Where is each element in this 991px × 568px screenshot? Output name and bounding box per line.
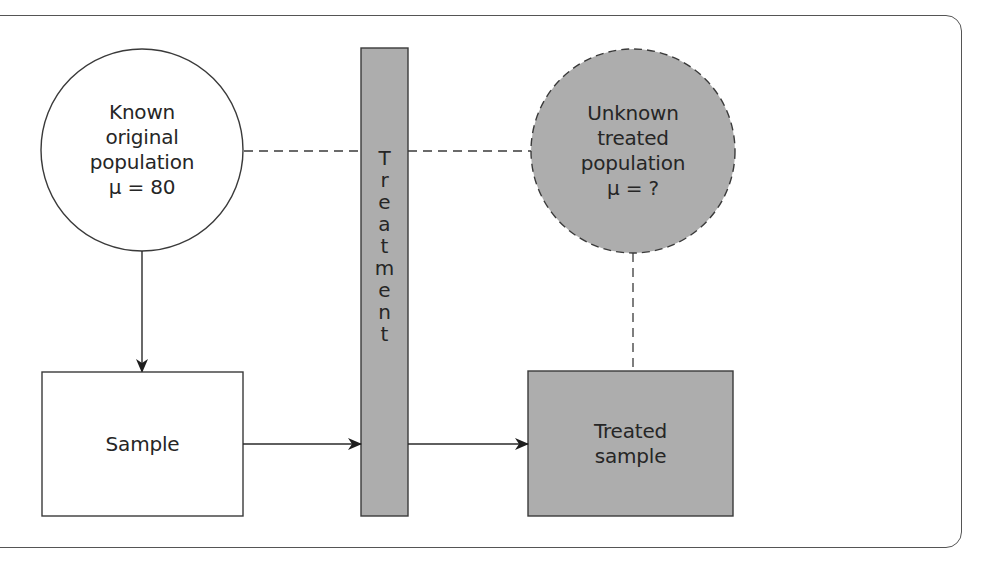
treatment-letter: r bbox=[380, 169, 388, 191]
treatment-letter: n bbox=[378, 301, 391, 323]
treatment-letter: m bbox=[375, 257, 394, 279]
sample-label: Sample bbox=[42, 372, 243, 516]
treatment-letter: t bbox=[381, 323, 389, 345]
treated-sample-line-2: sample bbox=[595, 444, 667, 469]
known-population-line-2: original bbox=[105, 125, 178, 150]
treatment-letter: e bbox=[378, 279, 390, 301]
treatment-letter: t bbox=[381, 235, 389, 257]
known-population-line-1: Known bbox=[109, 100, 175, 125]
treatment-letter: e bbox=[378, 191, 390, 213]
unknown-population-line-2: treated bbox=[597, 126, 669, 151]
known-population-mean: μ = 80 bbox=[109, 175, 175, 200]
sample-text: Sample bbox=[106, 432, 180, 457]
treated-sample-line-1: Treated bbox=[594, 419, 667, 444]
known-population-line-3: population bbox=[90, 150, 194, 175]
unknown-population-line-1: Unknown bbox=[587, 101, 678, 126]
unknown-population-label: Unknown treated population μ = ? bbox=[531, 49, 735, 253]
treatment-letter: T bbox=[378, 147, 390, 169]
treatment-letter: a bbox=[378, 213, 390, 235]
unknown-population-mean: μ = ? bbox=[607, 176, 659, 201]
treated-sample-label: Treated sample bbox=[528, 371, 733, 516]
treatment-label: T r e a t m e n t bbox=[361, 147, 408, 345]
unknown-population-line-3: population bbox=[581, 151, 685, 176]
known-population-label: Known original population μ = 80 bbox=[41, 49, 243, 251]
